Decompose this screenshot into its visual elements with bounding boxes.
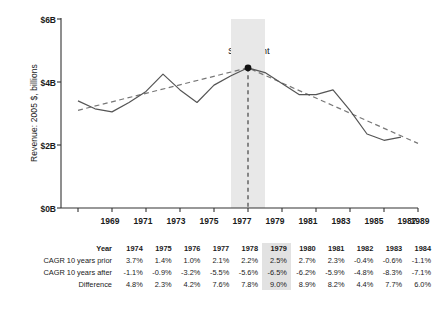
cagr-after-1977: -5.5% (204, 267, 233, 279)
cagr-prior-1980: 2.7% (291, 255, 320, 267)
cagr-after-1978: -5.6% (233, 267, 262, 279)
cagr-prior-1982: -0.4% (348, 255, 377, 267)
cagr-prior-1977: 2.1% (204, 255, 233, 267)
cagr-prior-1975: 1.4% (147, 255, 176, 267)
chart-plot-area: Revenue: 2005 $, billions $6B $4B $2B $0… (0, 0, 435, 238)
cagr-prior-1984: -1.1% (406, 255, 435, 267)
cagr-after-1974: -1.1% (118, 267, 147, 279)
cagr-prior-1974: 3.7% (118, 255, 147, 267)
x-axis-ticks (78, 208, 418, 212)
table-row-header-cagr-prior: CAGR 10 years prior (8, 255, 118, 267)
cagr-prior-1983: -0.6% (377, 255, 406, 267)
table-row-header-difference: Difference (8, 278, 118, 290)
cagr-table: Year 1974 1975 1976 1977 1978 1979 1980 … (8, 243, 435, 290)
difference-1981: 8.2% (320, 278, 349, 290)
difference-1977: 7.6% (204, 278, 233, 290)
table-col-header-1981: 1981 (320, 243, 349, 255)
difference-1979: 9.0% (262, 278, 291, 290)
table-col-header-1976: 1976 (176, 243, 205, 255)
table-col-header-1984: 1984 (406, 243, 435, 255)
y-axis-ticks (57, 19, 61, 208)
table-row: CAGR 10 years prior 3.7% 1.4% 1.0% 2.1% … (8, 255, 435, 267)
cagr-prior-1978: 2.2% (233, 255, 262, 267)
difference-1976: 4.2% (176, 278, 205, 290)
difference-1982: 4.4% (348, 278, 377, 290)
table-row: CAGR 10 years after -1.1% -0.9% -3.2% -5… (8, 267, 435, 279)
cagr-after-1979: -6.5% (262, 267, 291, 279)
cagr-after-1982: -4.8% (348, 267, 377, 279)
cagr-prior-1981: 2.3% (320, 255, 349, 267)
cagr-table-wrap: Year 1974 1975 1976 1977 1978 1979 1980 … (0, 243, 435, 290)
cagr-prior-1979: 2.5% (262, 255, 291, 267)
table-col-header-1975: 1975 (147, 243, 176, 255)
table-row-header-year: Year (8, 243, 118, 255)
table-col-header-1977: 1977 (204, 243, 233, 255)
difference-1975: 2.3% (147, 278, 176, 290)
difference-1974: 4.8% (118, 278, 147, 290)
cagr-after-1975: -0.9% (147, 267, 176, 279)
cagr-after-1984: -7.1% (406, 267, 435, 279)
chart-svg (0, 0, 435, 238)
difference-1980: 8.9% (291, 278, 320, 290)
difference-1983: 7.7% (377, 278, 406, 290)
table-row: Difference 4.8% 2.3% 4.2% 7.6% 7.8% 9.0%… (8, 278, 435, 290)
cagr-after-1983: -8.3% (377, 267, 406, 279)
cagr-after-1980: -6.2% (291, 267, 320, 279)
table-col-header-1974: 1974 (118, 243, 147, 255)
table-col-header-1983: 1983 (377, 243, 406, 255)
table-col-header-1978: 1978 (233, 243, 262, 255)
cagr-after-1976: -3.2% (176, 267, 205, 279)
cagr-prior-1976: 1.0% (176, 255, 205, 267)
table-col-header-1982: 1982 (348, 243, 377, 255)
chart-figure: Revenue: 2005 $, billions $6B $4B $2B $0… (0, 0, 435, 312)
table-col-header-1979: 1979 (262, 243, 291, 255)
difference-1984: 6.0% (406, 278, 435, 290)
difference-1978: 7.8% (233, 278, 262, 290)
table-header-row: Year 1974 1975 1976 1977 1978 1979 1980 … (8, 243, 435, 255)
cagr-after-1981: -5.9% (320, 267, 349, 279)
stall-point-marker (245, 64, 252, 71)
table-col-header-1980: 1980 (291, 243, 320, 255)
table-row-header-cagr-after: CAGR 10 years after (8, 267, 118, 279)
